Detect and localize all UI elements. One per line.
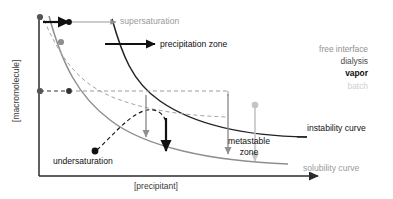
precipitation-zone-label: precipitation zone (160, 40, 227, 50)
metastable-zone-line1: metastable (228, 136, 270, 146)
undersaturation-start-dot (92, 148, 99, 155)
solubility-curve-label: solubility curve (303, 164, 359, 174)
batch-start-dot (252, 102, 259, 109)
supersaturation-label: supersaturation (120, 17, 179, 27)
metastable-zone-label: metastable zone (228, 136, 270, 157)
x-axis-label: [precipitant] (134, 182, 178, 192)
instability-curve-label: instability curve (307, 124, 366, 134)
y-axis-label: [macromolecule] (12, 45, 22, 137)
legend-item-free-interface: free interface (258, 43, 368, 55)
legend-item-batch: batch (258, 80, 368, 92)
legend-item-vapor: vapor (258, 67, 368, 79)
gray-drop-start-dot (58, 39, 64, 45)
undersaturation-label: undersaturation (53, 157, 113, 167)
free-interface-trajectory (44, 20, 228, 117)
dialysis-point-dot (66, 88, 72, 94)
dialysis-axis-dot (37, 88, 43, 94)
legend-item-dialysis: dialysis (258, 55, 368, 67)
method-legend: free interface dialysis vapor batch (258, 43, 368, 92)
metastable-zone-line2: zone (240, 147, 259, 157)
free-interface-start-dot (37, 14, 43, 20)
phase-diagram-figure: [macromolecule] [precipitant] supersatur… (0, 0, 393, 199)
free-interface-point-dot (66, 19, 72, 25)
